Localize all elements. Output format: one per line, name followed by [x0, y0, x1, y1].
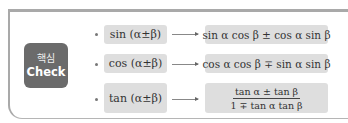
badge-korean-label: 핵심 — [37, 53, 55, 65]
arrow-right-icon — [172, 34, 198, 35]
bullet-icon — [95, 33, 98, 36]
fraction-numerator: tan α ± tan β — [233, 86, 300, 99]
badge-english-label: Check — [27, 65, 66, 79]
formula-left-cos: cos (α±β) — [104, 54, 167, 73]
core-check-badge: 핵심 Check — [24, 43, 68, 88]
formula-right-tan: tan α ± tan β 1 ∓ tan α tan β — [205, 83, 328, 113]
arrow-right-icon — [172, 64, 198, 65]
formula-right-cos: cos α cos β ∓ sin α sin β — [205, 54, 328, 73]
fraction: tan α ± tan β 1 ∓ tan α tan β — [230, 86, 302, 111]
arrow-right-icon — [172, 99, 198, 100]
bullet-icon — [95, 98, 98, 101]
bullet-icon — [95, 63, 98, 66]
fraction-denominator: 1 ∓ tan α tan β — [230, 99, 302, 111]
formula-left-sin: sin (α±β) — [104, 25, 167, 44]
formula-right-sin: sin α cos β ± cos α sin β — [205, 25, 328, 44]
formula-left-tan: tan (α±β) — [104, 83, 167, 113]
